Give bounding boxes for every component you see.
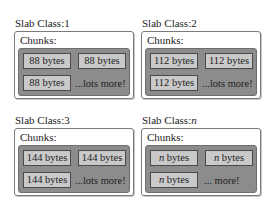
chunk: 88 bytes <box>23 53 71 69</box>
slab-container: Chunks: 144 bytes 144 bytes 144 bytes ..… <box>14 128 134 196</box>
slab-class-title: Slab Class:1 <box>14 17 134 31</box>
slab-class-label: Slab Class: <box>15 17 64 29</box>
slab-class-2: Slab Class:2 Chunks: 112 bytes 112 bytes… <box>141 17 261 99</box>
chunks-label: Chunks: <box>145 34 257 48</box>
slab-class-number: 2 <box>191 17 197 29</box>
slab-class-title: Slab Class:n <box>141 114 261 128</box>
slab-class-label: Slab Class: <box>142 17 191 29</box>
chunk: 144 bytes <box>23 172 71 188</box>
slab-class-label: Slab Class: <box>15 114 64 126</box>
chunks-area: 88 bytes 88 bytes 88 bytes ...lots more! <box>18 48 130 96</box>
slab-class-3: Slab Class:3 Chunks: 144 bytes 144 bytes… <box>14 114 134 196</box>
chunks-area: 112 bytes 112 bytes 112 bytes ...lots mo… <box>145 48 257 96</box>
chunks-area: n bytes n bytes n bytes ... more! <box>145 145 257 193</box>
chunk: 112 bytes <box>150 53 198 69</box>
more-chunks-text: ...lots more! <box>202 77 253 90</box>
chunks-area: 144 bytes 144 bytes 144 bytes ...lots mo… <box>18 145 130 193</box>
chunks-label: Chunks: <box>145 131 257 145</box>
chunk-unit: bytes <box>164 174 189 185</box>
chunk: 112 bytes <box>150 75 198 91</box>
slab-container: Chunks: 112 bytes 112 bytes 112 bytes ..… <box>141 31 261 99</box>
chunk: 88 bytes <box>23 75 71 91</box>
chunk: n bytes <box>150 150 198 166</box>
slab-class-n: Slab Class:n Chunks: n bytes n bytes n b… <box>141 114 261 196</box>
slab-class-label: Slab Class: <box>142 114 191 126</box>
chunk: 144 bytes <box>23 150 71 166</box>
slab-container: Chunks: 88 bytes 88 bytes 88 bytes ...lo… <box>14 31 134 99</box>
chunk: 88 bytes <box>78 53 126 69</box>
chunk-unit: bytes <box>164 152 189 163</box>
more-chunks-text: ... more! <box>204 174 240 187</box>
slab-class-number: 1 <box>64 17 70 29</box>
chunk-unit: bytes <box>219 152 244 163</box>
chunk: n bytes <box>150 172 198 188</box>
chunks-label: Chunks: <box>18 131 130 145</box>
chunks-label: Chunks: <box>18 34 130 48</box>
slab-class-title: Slab Class:3 <box>14 114 134 128</box>
chunk: 112 bytes <box>205 53 253 69</box>
slab-class-1: Slab Class:1 Chunks: 88 bytes 88 bytes 8… <box>14 17 134 99</box>
slab-class-number: 3 <box>64 114 70 126</box>
more-chunks-text: ...lots more! <box>75 77 126 90</box>
chunk: n bytes <box>205 150 253 166</box>
slab-container: Chunks: n bytes n bytes n bytes ... more… <box>141 128 261 196</box>
slab-class-number: n <box>191 114 197 126</box>
chunk: 144 bytes <box>78 150 126 166</box>
more-chunks-text: ...lots more! <box>75 174 126 187</box>
slab-class-title: Slab Class:2 <box>141 17 261 31</box>
